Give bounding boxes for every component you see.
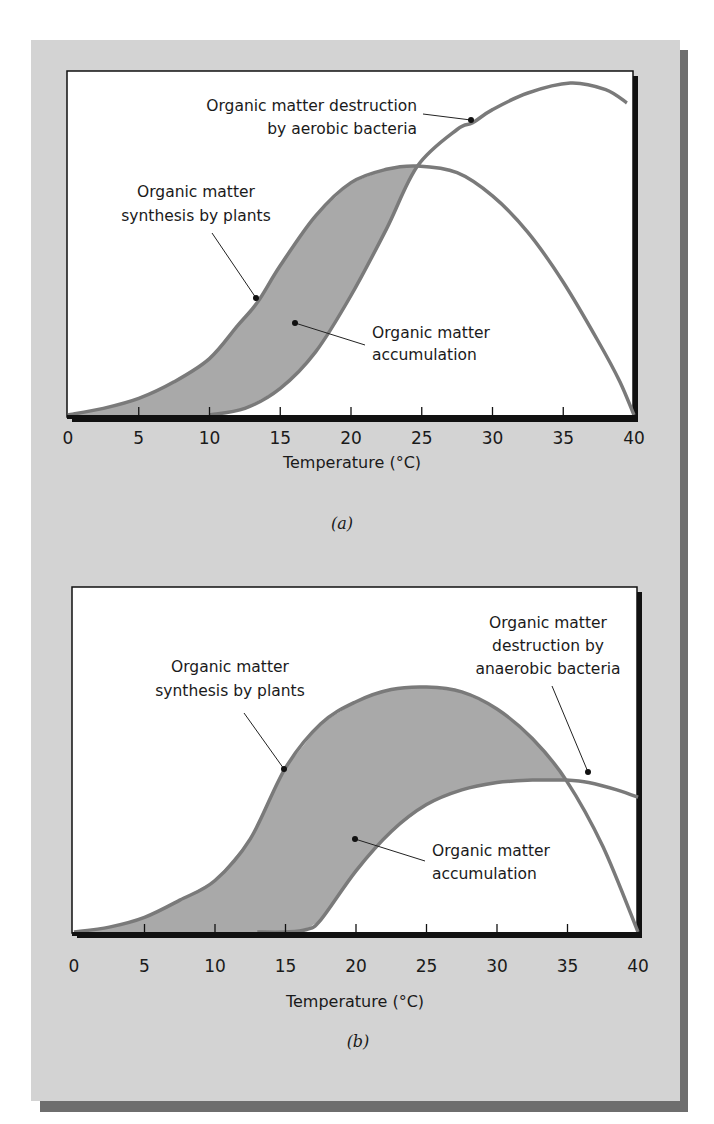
label-synthesis-b-2: synthesis by plants	[155, 682, 304, 700]
tick-label: 15	[269, 428, 291, 448]
label-accumulation-a-2: accumulation	[372, 346, 477, 364]
tick-label: 25	[411, 428, 433, 448]
panel-label-a: (a)	[331, 514, 353, 533]
figure: 0510152025303540 Organic matter destruct…	[0, 0, 714, 1124]
tick-label: 40	[623, 428, 645, 448]
label-synthesis-a-1: Organic matter	[137, 183, 256, 201]
tick-label: 5	[139, 956, 150, 976]
marker-accumulation-b	[352, 836, 358, 842]
x-axis-title-b: Temperature (°C)	[285, 992, 424, 1011]
label-synthesis-b-1: Organic matter	[171, 658, 290, 676]
label-destruction-b-3: anaerobic bacteria	[475, 660, 620, 678]
tick-label: 10	[199, 428, 221, 448]
marker-synthesis-a	[253, 295, 259, 301]
tick-label: 35	[552, 428, 574, 448]
tick-label: 35	[557, 956, 579, 976]
marker-destruction-b	[585, 769, 591, 775]
x-axis-title-a: Temperature (°C)	[282, 453, 421, 472]
tick-label: 20	[340, 428, 362, 448]
panel-label-b: (b)	[347, 1032, 370, 1051]
label-accumulation-a-1: Organic matter	[372, 324, 491, 342]
marker-synthesis-b	[281, 766, 287, 772]
tick-label: 25	[416, 956, 438, 976]
label-accumulation-b-1: Organic matter	[432, 842, 551, 860]
tick-label: 30	[486, 956, 508, 976]
label-accumulation-b-2: accumulation	[432, 865, 537, 883]
label-destruction-b-1: Organic matter	[489, 614, 608, 632]
tick-label: 10	[204, 956, 226, 976]
tick-label: 20	[345, 956, 367, 976]
tick-label: 0	[63, 428, 74, 448]
tick-label: 5	[133, 428, 144, 448]
tick-label: 30	[482, 428, 504, 448]
label-destruction-b-2: destruction by	[492, 637, 604, 655]
label-synthesis-a-2: synthesis by plants	[121, 207, 270, 225]
label-destruction-a-1: Organic matter destruction	[206, 97, 417, 115]
tick-label: 40	[627, 956, 649, 976]
marker-destruction-a	[468, 117, 474, 123]
label-destruction-a-2: by aerobic bacteria	[267, 120, 417, 138]
tick-label: 0	[69, 956, 80, 976]
marker-accumulation-a	[292, 320, 298, 326]
tick-label: 15	[275, 956, 297, 976]
